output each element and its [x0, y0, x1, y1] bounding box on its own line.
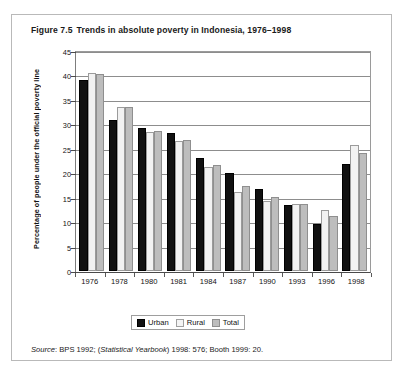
bar-rural-1978: [117, 107, 125, 271]
bar-rural-1996: [321, 210, 329, 271]
bar-group: [281, 53, 310, 271]
bar-total-1998: [359, 153, 367, 271]
figure-title: Figure 7.5Trends in absolute poverty in …: [31, 25, 291, 35]
legend-item-rural: Rural: [176, 318, 205, 327]
bar-group: [340, 53, 369, 271]
bar-urban-1984: [196, 158, 204, 271]
x-tick-label: 1976: [75, 277, 105, 286]
y-tick-mark: [71, 223, 76, 224]
bar-groups: [77, 53, 369, 271]
source-note: Source: BPS 1992; (Statistical Yearbook)…: [31, 345, 263, 354]
source-text-start: : BPS 1992; (: [55, 345, 100, 354]
bar-group: [252, 53, 281, 271]
bar-group: [223, 53, 252, 271]
figure-number: Figure 7.5: [31, 25, 73, 35]
bar-total-1978: [125, 107, 133, 271]
bar-urban-1978: [109, 120, 117, 271]
bar-total-1987: [242, 186, 250, 271]
source-italic-work: Statistical Yearbook: [100, 345, 167, 354]
bar-total-1984: [213, 165, 221, 271]
bar-rural-1984: [204, 167, 212, 271]
bar-urban-1981: [167, 133, 175, 271]
x-tick-mark: [371, 273, 372, 277]
bar-urban-1998: [342, 164, 350, 271]
x-tick-label: 1980: [134, 277, 164, 286]
y-tick-mark: [71, 174, 76, 175]
x-tick-label: 1990: [253, 277, 283, 286]
bar-rural-1990: [263, 201, 271, 271]
legend-swatch-rural: [176, 319, 184, 327]
bar-total-1993: [300, 204, 308, 271]
plot-area: 051015202530354045: [75, 51, 371, 273]
x-tick-label: 1984: [193, 277, 223, 286]
x-tick-label: 1993: [282, 277, 312, 286]
bar-group: [311, 53, 340, 271]
bar-group: [135, 53, 164, 271]
bar-rural-1976: [88, 73, 96, 271]
chart-legend: UrbanRuralTotal: [131, 315, 245, 330]
y-tick-label: 30: [63, 121, 71, 130]
legend-label: Total: [223, 318, 239, 327]
bar-total-1976: [96, 74, 104, 271]
bar-group: [165, 53, 194, 271]
bar-total-1990: [271, 197, 279, 271]
legend-swatch-total: [212, 319, 220, 327]
bar-group: [77, 53, 106, 271]
bar-urban-1996: [313, 224, 321, 271]
figure-title-text: Trends in absolute poverty in Indonesia,…: [77, 25, 292, 35]
y-tick-mark: [71, 150, 76, 151]
bar-group: [106, 53, 135, 271]
legend-item-urban: Urban: [137, 318, 169, 327]
x-tick-label: 1987: [223, 277, 253, 286]
y-tick-mark: [71, 76, 76, 77]
legend-item-total: Total: [212, 318, 239, 327]
x-tick-label: 1998: [341, 277, 371, 286]
bar-total-1980: [154, 131, 162, 271]
y-tick-mark: [71, 248, 76, 249]
bar-group: [194, 53, 223, 271]
y-tick-mark: [71, 199, 76, 200]
bar-rural-1998: [350, 145, 358, 271]
bar-total-1996: [329, 216, 337, 271]
legend-label: Urban: [148, 318, 169, 327]
x-tick-label: 1981: [164, 277, 194, 286]
y-axis-label: Percentage of people under the official …: [30, 45, 42, 273]
y-tick-label: 20: [63, 170, 71, 179]
bar-rural-1993: [292, 204, 300, 271]
y-tick-label: 15: [63, 194, 71, 203]
y-tick-label: 10: [63, 219, 71, 228]
bar-urban-1980: [138, 128, 146, 271]
bar-total-1981: [183, 140, 191, 272]
chart-region: Percentage of people under the official …: [31, 45, 376, 307]
bar-urban-1987: [225, 173, 233, 271]
y-tick-label: 45: [63, 48, 71, 57]
y-tick-mark: [71, 52, 76, 53]
bar-urban-1990: [255, 189, 263, 271]
bar-rural-1987: [234, 192, 242, 271]
source-text-end: ) 1998: 576; Booth 1999: 20.: [167, 345, 263, 354]
bar-rural-1980: [146, 132, 154, 271]
figure-frame: Figure 7.5Trends in absolute poverty in …: [11, 14, 392, 361]
bar-rural-1981: [175, 141, 183, 271]
y-tick-label: 40: [63, 72, 71, 81]
y-tick-mark: [71, 101, 76, 102]
x-tick-label: 1978: [105, 277, 135, 286]
y-tick-mark: [71, 125, 76, 126]
x-tick-label: 1996: [312, 277, 342, 286]
y-tick-label: 35: [63, 96, 71, 105]
bar-urban-1976: [79, 80, 87, 271]
y-tick-label: 25: [63, 145, 71, 154]
source-label: Source: [31, 345, 55, 354]
bar-urban-1993: [284, 205, 292, 271]
legend-label: Rural: [187, 318, 205, 327]
x-axis-labels: 1976197819801981198419871990199319961998: [75, 277, 371, 286]
legend-swatch-urban: [137, 319, 145, 327]
